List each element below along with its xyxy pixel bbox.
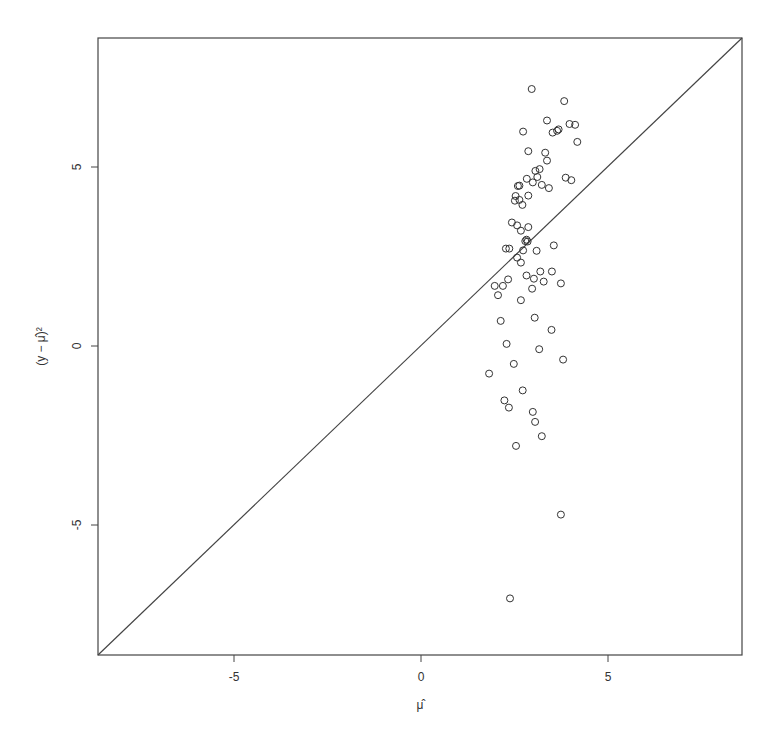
data-point [495,292,502,299]
data-point [514,254,521,261]
y-tick-label: -5 [70,519,84,530]
data-point [537,268,544,275]
data-point [536,346,543,353]
data-point [557,511,564,518]
data-point [531,314,538,321]
y-tick-label: 0 [70,342,84,349]
x-axis: -505 [229,655,612,684]
data-point [499,282,506,289]
scatter-plot: -505 -505 μ̂ (y − μ̂)² [0,0,778,750]
data-point [517,227,524,234]
data-point [548,268,555,275]
data-point [529,285,536,292]
y-tick-label: 5 [70,163,84,170]
data-point [529,408,536,415]
data-point [555,126,562,133]
data-point [497,317,504,324]
data-point [486,370,493,377]
data-points [486,86,581,602]
data-point [517,259,524,266]
x-tick-label: -5 [229,670,240,684]
data-point [544,117,551,124]
data-point [560,356,567,363]
data-point [568,177,575,184]
data-point [557,280,564,287]
data-point [523,272,530,279]
data-point [505,276,512,283]
data-point [530,275,537,282]
data-point [548,326,555,333]
data-point [503,340,510,347]
data-point [519,387,526,394]
data-point [507,595,514,602]
data-point [540,278,547,285]
data-point [534,174,541,181]
data-point [525,224,532,231]
data-point [510,360,517,367]
data-point [525,192,532,199]
data-point [501,397,508,404]
data-point [528,86,535,93]
data-point [561,98,568,105]
identity-line [98,38,742,655]
data-point [491,282,498,289]
data-point [538,181,545,188]
data-point [532,418,539,425]
data-point [517,297,524,304]
y-axis-label: (y − μ̂)² [34,327,48,366]
data-point [544,157,551,164]
x-tick-label: 5 [605,670,612,684]
y-axis: -505 [70,163,98,530]
data-point [542,149,549,156]
data-point [574,138,581,145]
data-point [550,242,557,249]
x-axis-label: μ̂ [417,698,426,712]
data-point [505,404,512,411]
data-point [513,442,520,449]
data-point [525,148,532,155]
data-point [545,185,552,192]
data-point [538,433,545,440]
data-point [533,247,540,254]
x-tick-label: 0 [418,670,425,684]
data-point [536,166,543,173]
data-point [520,128,527,135]
